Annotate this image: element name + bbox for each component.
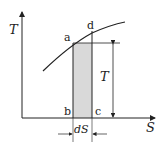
ts-diagram: T S a d b c T dS <box>0 0 162 152</box>
y-axis-label: T <box>9 22 19 37</box>
point-a-label: a <box>64 31 71 44</box>
point-d-label: d <box>87 19 94 32</box>
diagram-svg: T S a d b c T dS <box>0 0 162 152</box>
width-label: dS <box>74 123 89 136</box>
point-c-label: c <box>95 105 101 118</box>
shaded-area <box>73 43 92 118</box>
x-axis-label: S <box>146 120 155 135</box>
height-label: T <box>100 69 110 84</box>
point-b-label: b <box>64 105 71 118</box>
